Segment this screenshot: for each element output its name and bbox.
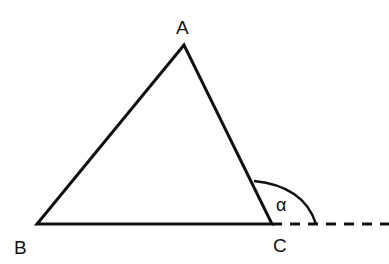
vertex-label-a: A [176, 18, 189, 37]
angle-label-alpha: α [276, 196, 286, 214]
triangle-diagram: A B C α [0, 0, 389, 264]
vertex-label-b: B [14, 238, 27, 257]
triangle-abc [37, 45, 272, 224]
vertex-label-c: C [273, 236, 287, 255]
diagram-canvas [0, 0, 389, 264]
